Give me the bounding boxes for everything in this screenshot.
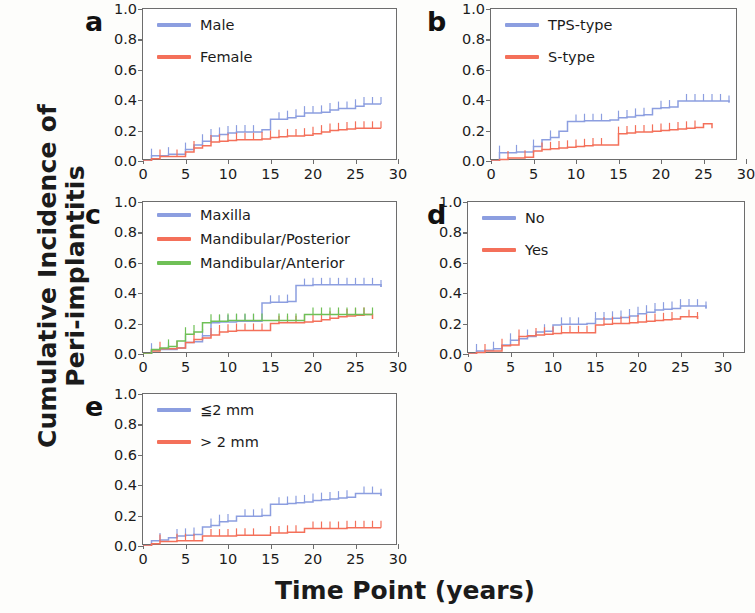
y-tick-label-a-2: 0.4	[114, 92, 137, 108]
legend-item-c-1[interactable]: Mandibular/Posterior	[157, 231, 350, 247]
legend-item-a-0[interactable]: Male	[157, 17, 252, 33]
legend-b: TPS-typeS-type	[505, 17, 612, 81]
x-tick-label-b-2: 10	[567, 166, 585, 182]
x-tick-label-c-3: 15	[261, 359, 279, 375]
legend-swatch-icon-a-1	[157, 55, 191, 58]
series-line-d-1	[468, 317, 698, 354]
y-tick-label-b-1: 0.2	[462, 123, 485, 139]
y-tick-label-e-1: 0.2	[114, 508, 137, 524]
y-tick-label-d-1: 0.2	[439, 316, 462, 332]
legend-item-b-1[interactable]: S-type	[505, 49, 612, 65]
legend-item-e-0[interactable]: ≦2 mm	[157, 402, 259, 418]
x-tick-label-b-3: 15	[609, 166, 627, 182]
x-tick-label-a-5: 25	[346, 166, 364, 182]
y-tick-label-a-3: 0.6	[114, 62, 137, 78]
y-tick-label-c-2: 0.4	[114, 285, 137, 301]
x-tick-label-a-4: 20	[304, 166, 322, 182]
panel-label-e: e	[85, 393, 103, 420]
y-tick-label-b-3: 0.6	[462, 62, 485, 78]
legend-label-e-0: ≦2 mm	[200, 402, 254, 418]
x-tick-label-c-4: 20	[304, 359, 322, 375]
x-tick-label-e-3: 15	[261, 551, 279, 567]
legend-item-d-1[interactable]: Yes	[482, 242, 548, 258]
x-tick-label-d-0: 0	[463, 359, 472, 375]
x-tick-label-a-3: 15	[261, 166, 279, 182]
plot-area-a: 0.00.20.40.60.81.0051015202530MaleFemale	[142, 8, 397, 160]
x-tick-label-e-0: 0	[138, 551, 147, 567]
x-tick-label-b-4: 20	[652, 166, 670, 182]
legend-label-d-0: No	[525, 210, 545, 226]
y-axis-title-line1: Cumulative Incidence of	[34, 76, 62, 476]
y-tick-label-a-5: 1.0	[114, 1, 137, 17]
y-tick-label-d-3: 0.6	[439, 255, 462, 271]
x-tick-mark-a-6	[398, 159, 399, 164]
y-tick-label-c-3: 0.6	[114, 255, 137, 271]
legend-item-a-1[interactable]: Female	[157, 49, 252, 65]
plot-area-e: 0.00.20.40.60.81.0051015202530≦2 mm> 2 m…	[142, 393, 397, 545]
plot-area-c: 0.00.20.40.60.81.0051015202530MaxillaMan…	[142, 201, 397, 353]
legend-item-e-1[interactable]: > 2 mm	[157, 434, 259, 450]
legend-swatch-icon-c-0	[157, 213, 191, 216]
y-tick-label-e-0: 0.0	[114, 538, 137, 554]
x-tick-label-d-2: 10	[544, 359, 562, 375]
x-tick-label-e-1: 5	[181, 551, 190, 567]
x-tick-label-e-6: 30	[389, 551, 407, 567]
x-tick-label-e-4: 20	[304, 551, 322, 567]
legend-d: NoYes	[482, 210, 548, 274]
y-tick-label-c-5: 1.0	[114, 194, 137, 210]
x-tick-label-b-0: 0	[486, 166, 495, 182]
legend-swatch-icon-c-2	[157, 261, 191, 264]
legend-item-d-0[interactable]: No	[482, 210, 548, 226]
x-tick-label-b-6: 30	[737, 166, 755, 182]
legend-item-b-0[interactable]: TPS-type	[505, 17, 612, 33]
x-tick-label-d-3: 15	[586, 359, 604, 375]
legend-e: ≦2 mm> 2 mm	[157, 402, 259, 466]
legend-item-c-2[interactable]: Mandibular/Anterior	[157, 255, 350, 271]
panel-label-c: c	[85, 201, 101, 228]
legend-item-c-0[interactable]: Maxilla	[157, 207, 350, 223]
y-tick-label-c-0: 0.0	[114, 346, 137, 362]
y-tick-label-a-1: 0.2	[114, 123, 137, 139]
legend-swatch-icon-d-1	[482, 248, 516, 251]
legend-label-c-2: Mandibular/Anterior	[200, 255, 345, 271]
x-tick-label-d-5: 25	[671, 359, 689, 375]
y-tick-label-d-0: 0.0	[439, 346, 462, 362]
y-tick-label-d-5: 1.0	[439, 194, 462, 210]
legend-label-a-1: Female	[200, 49, 252, 65]
series-line-b-0	[491, 101, 729, 161]
series-line-e-1	[143, 528, 381, 546]
legend-label-e-1: > 2 mm	[200, 434, 259, 450]
y-tick-label-c-1: 0.2	[114, 316, 137, 332]
y-tick-label-e-2: 0.4	[114, 477, 137, 493]
legend-c: MaxillaMandibular/PosteriorMandibular/An…	[157, 207, 350, 279]
y-axis-title: Cumulative Incidence of Peri-implantitis	[34, 76, 90, 476]
x-tick-label-a-2: 10	[219, 166, 237, 182]
legend-a: MaleFemale	[157, 17, 252, 81]
x-tick-label-a-6: 30	[389, 166, 407, 182]
x-tick-mark-e-6	[398, 544, 399, 549]
plot-area-d: 0.00.20.40.60.81.0051015202530NoYes	[467, 201, 745, 353]
y-tick-label-a-4: 0.8	[114, 31, 137, 47]
x-tick-label-a-0: 0	[138, 166, 147, 182]
x-tick-mark-b-6	[746, 159, 747, 164]
x-tick-label-c-0: 0	[138, 359, 147, 375]
y-tick-label-d-2: 0.4	[439, 285, 462, 301]
x-tick-label-b-5: 25	[694, 166, 712, 182]
legend-label-b-0: TPS-type	[548, 17, 612, 33]
legend-swatch-icon-e-1	[157, 440, 191, 443]
y-tick-label-e-5: 1.0	[114, 386, 137, 402]
x-tick-label-c-5: 25	[346, 359, 364, 375]
x-tick-label-e-5: 25	[346, 551, 364, 567]
x-tick-label-c-2: 10	[219, 359, 237, 375]
x-tick-label-c-1: 5	[181, 359, 190, 375]
panel-label-b: b	[427, 8, 446, 35]
legend-swatch-icon-b-0	[505, 23, 539, 26]
legend-label-c-0: Maxilla	[200, 207, 251, 223]
plot-area-b: 0.00.20.40.60.81.0051015202530TPS-typeS-…	[490, 8, 737, 160]
legend-label-c-1: Mandibular/Posterior	[200, 231, 350, 247]
x-tick-label-c-6: 30	[389, 359, 407, 375]
x-tick-label-d-4: 20	[629, 359, 647, 375]
legend-swatch-icon-d-0	[482, 216, 516, 219]
series-line-e-0	[143, 494, 381, 546]
